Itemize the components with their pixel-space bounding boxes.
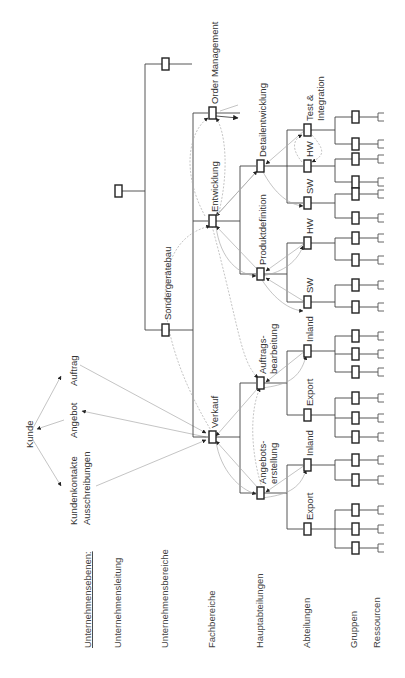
level-fachbereiche: Fachbereiche (206, 590, 217, 648)
sw-a-label: SW (304, 278, 315, 293)
group-box[interactable] (352, 392, 359, 404)
group-box[interactable] (352, 366, 359, 378)
level-abteilungen: Abteilungen (301, 598, 312, 648)
export-b-label: Export (304, 378, 315, 406)
process-flows (165, 105, 322, 498)
group-box[interactable] (352, 301, 359, 313)
hw-a-box[interactable] (304, 237, 311, 249)
export-b-box[interactable] (304, 409, 311, 421)
hw-b-label: HW (304, 141, 315, 157)
export-a-label: Export (304, 492, 315, 520)
level-labels: Unternehmensebenen: Unternehmensleitung … (82, 549, 382, 648)
group-box[interactable] (352, 232, 359, 244)
test-integration-box[interactable] (304, 124, 311, 136)
group-box[interactable] (352, 279, 359, 291)
group-box[interactable] (352, 454, 359, 466)
group-box[interactable] (352, 153, 359, 165)
inland-b-box[interactable] (304, 345, 311, 357)
group-box[interactable] (352, 138, 359, 150)
kundenkontakte-label: Kundenkontakte (68, 456, 79, 525)
sw-a-box[interactable] (304, 296, 311, 308)
entwicklung-box[interactable] (209, 215, 216, 227)
ausschreibungen-label: Ausschreibungen (81, 452, 92, 525)
customer-cluster: Kunde Kundenkontakte Ausschreibungen Ang… (24, 355, 206, 525)
group-box[interactable] (352, 474, 359, 486)
groups-and-resources (311, 111, 384, 554)
kunde-label: Kunde (24, 421, 35, 448)
unternehmensleitung-box[interactable] (115, 185, 122, 197)
angebot-label: Angebot (68, 402, 79, 438)
group-box[interactable] (352, 212, 359, 224)
detailentwicklung-label: Detailentwicklung (257, 83, 268, 157)
produktdefinition-box[interactable] (257, 268, 264, 280)
hw-a-label: HW (304, 218, 315, 234)
level-header: Unternehmensebenen: (82, 551, 93, 648)
entwicklung-label: Entwicklung (209, 161, 220, 212)
group-box[interactable] (352, 330, 359, 342)
sondergeraetebau-box[interactable] (162, 324, 169, 336)
group-box[interactable] (352, 431, 359, 443)
export-a-box[interactable] (304, 523, 311, 535)
auftrags-label-2: bearbeitung (268, 324, 279, 374)
detailentwicklung-box[interactable] (257, 160, 264, 172)
verkauf-box[interactable] (209, 431, 216, 443)
org-structure-diagram: Unternehmensebenen: Unternehmensleitung … (0, 0, 405, 678)
group-box[interactable] (352, 111, 359, 123)
level-ressourcen: Ressourcen (371, 597, 382, 648)
auftrag-label: Auftrag (68, 355, 79, 386)
order-management-box[interactable] (209, 107, 216, 119)
inland-a-box[interactable] (304, 459, 311, 471)
level-unternehmensbereiche: Unternehmensbereiche (159, 549, 170, 648)
test-label-1: Test & (304, 94, 315, 121)
inland-b-label: Inland (304, 316, 315, 342)
group-box[interactable] (352, 188, 359, 200)
sondergeraetebau-label: Sondergerätebau (162, 247, 173, 320)
hw-b-box[interactable] (304, 160, 311, 172)
group-box[interactable] (352, 254, 359, 266)
angebots-label-2: erstellung (268, 443, 279, 484)
level-unternehmensleitung: Unternehmensleitung (112, 558, 123, 648)
angebots-label-1: Angebots- (257, 441, 268, 484)
verkauf-label: Verkauf (209, 395, 220, 428)
auftragsbearbeitung-box[interactable] (257, 377, 264, 389)
group-box[interactable] (352, 412, 359, 424)
node-labels: Sondergerätebau Order Management Entwick… (162, 21, 326, 520)
group-box[interactable] (352, 176, 359, 188)
group-box[interactable] (352, 542, 359, 554)
sw-b-label: SW (304, 179, 315, 194)
level-gruppen: Gruppen (348, 611, 359, 648)
group-box[interactable] (352, 348, 359, 360)
node-boxes (115, 58, 311, 535)
produktdefinition-label: Produktdefinition (257, 194, 268, 265)
angebotserstellung-box[interactable] (257, 487, 264, 499)
group-box[interactable] (352, 523, 359, 535)
inland-a-label: Inland (304, 430, 315, 456)
sw-b-box[interactable] (304, 197, 311, 209)
level-hauptabteilungen: Hauptabteilungen (254, 574, 265, 648)
group-box[interactable] (352, 504, 359, 516)
bereich-top-box[interactable] (162, 58, 169, 70)
auftrags-label-1: Auftrags- (257, 335, 268, 374)
order-management-label: Order Management (209, 21, 220, 104)
test-label-2: Integration (315, 76, 326, 121)
